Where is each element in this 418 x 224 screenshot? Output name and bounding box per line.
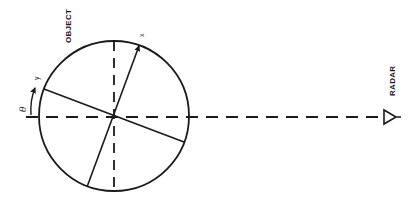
- radar-icon: [384, 110, 401, 124]
- x-axis-label: x: [138, 33, 145, 37]
- theta-rotation-arrow-icon: [31, 88, 35, 115]
- radar-label: RADAR: [388, 66, 397, 96]
- theta-angle-label: θ: [18, 106, 28, 112]
- object-radar-diagram: OBJECT RADAR x y θ: [0, 0, 418, 224]
- object-label: OBJECT: [64, 9, 73, 43]
- y-axis-label: y: [33, 76, 41, 80]
